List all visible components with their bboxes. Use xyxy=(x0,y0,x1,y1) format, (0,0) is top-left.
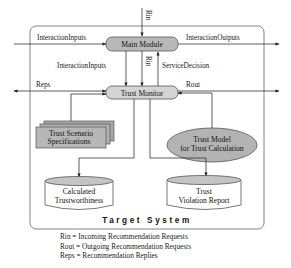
rout-label: Rout xyxy=(186,81,200,89)
rin-mid-label: Rin xyxy=(144,56,152,67)
interaction-inputs-mid-label: InteractionInputs xyxy=(57,62,106,70)
violation-report-label-line2: Violation Report xyxy=(179,196,231,205)
legend-reps: Reps = Recommendation Replies xyxy=(60,251,191,261)
legend-rin: Rin = Incoming Recommendation Requests xyxy=(60,232,191,242)
service-decision-label: ServiceDecision xyxy=(162,62,210,70)
violation-report-label-line1: Trust xyxy=(196,187,213,196)
calculated-trust-label-line2: Trustworthiness xyxy=(55,196,104,205)
interaction-inputs-in-label: InteractionInputs xyxy=(37,34,86,42)
main-module-label: Main Module xyxy=(121,40,163,49)
architecture-diagram: Rin InteractionInputs InteractionOutputs… xyxy=(0,0,291,268)
trust-monitor-label: Trust Monitor xyxy=(121,89,164,98)
calculated-trust-label-line1: Calculated xyxy=(63,187,96,196)
reps-label: Reps xyxy=(36,81,51,89)
legend: Rin = Incoming Recommendation Requests R… xyxy=(60,232,191,261)
interaction-outputs-label: InteractionOutputs xyxy=(186,34,240,42)
trust-scenario-label-line2: Specifications xyxy=(47,137,90,146)
trust-model-label-line1: Trust Model xyxy=(193,135,231,144)
legend-rout: Rout = Outgoing Recommendation Requests xyxy=(60,242,191,252)
rin-top-label: Rin xyxy=(144,10,152,21)
trust-model-label-line2: for Trust Calculation xyxy=(180,144,243,153)
target-system-title: Target System xyxy=(102,216,192,225)
